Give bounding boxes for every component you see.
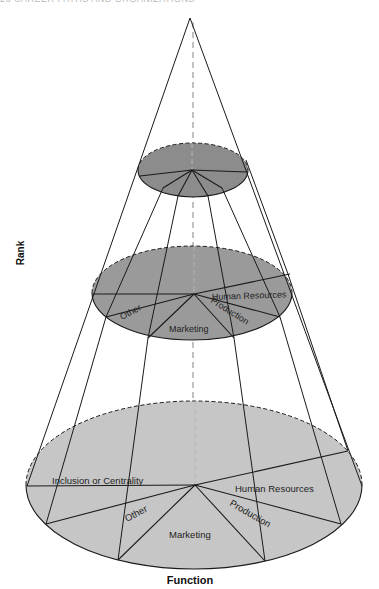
segment-label: Human Resources xyxy=(235,483,314,494)
level-top xyxy=(138,143,248,197)
function-axis-label: Function xyxy=(167,574,214,586)
segment-label: Inclusion or Centrality xyxy=(52,475,144,486)
segment-label: Marketing xyxy=(169,324,209,334)
segment-label: Marketing xyxy=(169,529,211,540)
cone-diagram: OtherMarketingProductionHuman ResourcesI… xyxy=(0,0,379,589)
level-discs xyxy=(26,143,362,569)
rank-axis-label: Rank xyxy=(15,240,26,265)
